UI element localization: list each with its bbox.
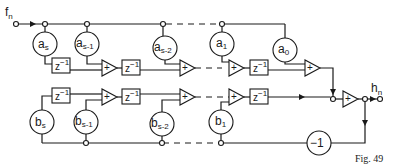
delay-lower-2: z−1 xyxy=(122,89,140,104)
figure-caption: Fig. 49 xyxy=(355,153,383,164)
adder-upper-2: + xyxy=(180,60,195,76)
wire xyxy=(221,102,229,110)
coef-b-s-1: bs-1 xyxy=(74,110,98,134)
input-label: fn xyxy=(5,5,13,21)
arrow-icon xyxy=(362,120,368,126)
adder-lower-1: + xyxy=(102,89,117,105)
delay-upper-2: z−1 xyxy=(122,60,140,75)
wire xyxy=(42,96,52,110)
bus-node xyxy=(43,22,48,27)
svg-text:+: + xyxy=(182,91,188,102)
coef-b-1: b1 xyxy=(209,110,233,134)
bus-node xyxy=(160,141,165,146)
svg-text:+: + xyxy=(104,62,110,73)
adder-upper-3: + xyxy=(229,60,244,76)
coef-b-s: bs xyxy=(30,110,54,134)
bus-node xyxy=(84,141,89,146)
adder-upper-1: + xyxy=(102,60,117,76)
delay-upper-1: z−1 xyxy=(52,58,70,73)
coef-a-0: a0 xyxy=(273,38,297,62)
svg-text:−1: −1 xyxy=(310,136,324,150)
bus-node xyxy=(85,22,90,27)
filter-block-diagram: fn as as-1 as-2 a1 a0 z−1 + xyxy=(0,0,398,168)
delay-lower-3: z−1 xyxy=(250,89,268,104)
svg-text:+: + xyxy=(345,93,351,104)
arrow-icon xyxy=(370,96,376,102)
bus-node xyxy=(219,141,224,146)
bus-node xyxy=(161,22,166,27)
coef-a-s-1: as-1 xyxy=(75,32,99,56)
coef-b-s-2: bs-2 xyxy=(150,112,174,136)
delay-lower-1: z−1 xyxy=(52,88,70,103)
adder-lower-2: + xyxy=(180,89,195,105)
svg-text:+: + xyxy=(231,62,237,73)
arrow-icon xyxy=(30,21,36,27)
wire xyxy=(165,60,180,64)
wire xyxy=(285,62,305,64)
wire xyxy=(320,68,333,97)
coef-a-s-2: as-2 xyxy=(153,36,177,60)
adder-output: + xyxy=(343,91,358,107)
summing-node xyxy=(331,97,336,102)
wire xyxy=(222,56,229,62)
wire xyxy=(86,100,102,110)
input-terminal xyxy=(14,22,19,27)
adder-lower-3: + xyxy=(229,89,244,105)
arrow-icon xyxy=(299,94,305,100)
arrow-icon xyxy=(330,89,336,95)
svg-text:+: + xyxy=(104,91,110,102)
inverter-minus-one: −1 xyxy=(307,131,331,155)
bus-node xyxy=(220,22,225,27)
coef-a-s: as xyxy=(33,32,57,56)
svg-text:+: + xyxy=(231,91,237,102)
adder-upper-4: + xyxy=(305,60,320,76)
delay-upper-3: z−1 xyxy=(250,60,268,75)
svg-text:+: + xyxy=(182,62,188,73)
output-terminal xyxy=(378,97,383,102)
wire xyxy=(162,100,180,112)
feedback-wire xyxy=(331,102,365,144)
svg-text:+: + xyxy=(307,62,313,73)
wire xyxy=(87,56,102,64)
coef-a-1: a1 xyxy=(210,32,234,56)
output-label: hn xyxy=(371,81,382,97)
output-node xyxy=(363,97,368,102)
wire xyxy=(45,56,52,64)
